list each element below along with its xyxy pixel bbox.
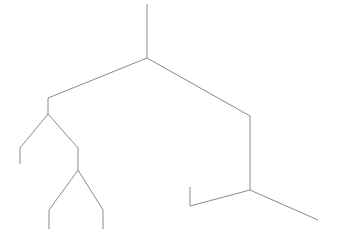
tree-lines (0, 0, 357, 251)
